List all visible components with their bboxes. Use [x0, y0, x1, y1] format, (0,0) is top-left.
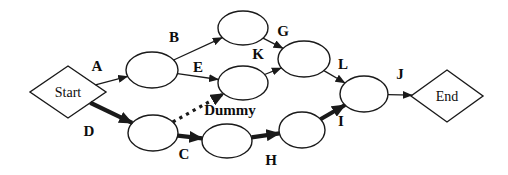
edge-b-arrow — [174, 38, 223, 60]
edge-h-arrow — [251, 133, 279, 137]
edge-h-label: H — [265, 152, 277, 168]
node-n3-shape — [218, 66, 268, 100]
edge-j-label: J — [396, 66, 404, 82]
edge-i-label: I — [338, 113, 344, 129]
node-n7-shape — [279, 112, 325, 148]
edge-a-arrow — [95, 76, 127, 84]
edge-b-label: B — [169, 29, 179, 45]
edge-c-label: C — [179, 146, 190, 162]
edge-l-label: L — [338, 56, 348, 72]
node-n4-shape — [278, 41, 330, 77]
node-end-label: End — [436, 89, 459, 104]
node-n6-shape — [202, 124, 252, 158]
node-n8-shape — [340, 76, 388, 112]
edge-k-arrow — [265, 68, 282, 75]
edge-a-label: A — [92, 58, 103, 74]
node-start-label: Start — [55, 85, 82, 100]
edge-g-label: G — [277, 23, 289, 39]
edge-c-arrow — [178, 136, 203, 139]
edge-l-arrow — [324, 71, 345, 83]
node-n5-shape — [128, 115, 178, 151]
network-diagram-figure: StartEndABEDDummyCHGKLIJ — [0, 0, 508, 175]
edge-g-arrow — [263, 38, 283, 48]
edge-e-label: E — [193, 59, 203, 75]
edge-d-label: D — [84, 123, 95, 139]
node-n1-shape — [126, 52, 178, 88]
edge-dummy-label: Dummy — [204, 102, 256, 118]
edge-d-arrow — [90, 103, 132, 123]
edge-j-arrow — [388, 95, 412, 96]
node-n2-shape — [218, 11, 268, 45]
edge-k-label: K — [252, 46, 264, 62]
diagram-canvas: StartEndABEDDummyCHGKLIJ — [0, 0, 508, 175]
